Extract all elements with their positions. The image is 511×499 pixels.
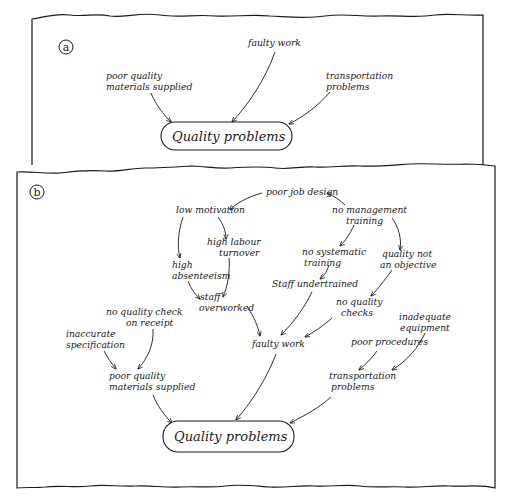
panel-a-target-label: Quality problems <box>172 129 286 144</box>
node-quality-not-objective: quality notan objective <box>380 248 437 270</box>
panel-b: b poor job designlow motivationno manage… <box>17 164 495 488</box>
node-faulty-work-b: faulty work <box>251 338 305 349</box>
svg-text:a: a <box>63 41 70 54</box>
node-faulty-work: faulty work <box>247 37 301 48</box>
panel-b-target-node: Quality problems <box>163 421 294 452</box>
panel-a-target-node: Quality problems <box>161 122 292 150</box>
quality-problems-diagram: a faulty workpoor qualitymaterials suppl… <box>0 0 511 499</box>
node-staff-undertrained: Staff undertrained <box>272 278 358 289</box>
panel-b-target-label: Quality problems <box>174 429 288 444</box>
panel-a: a faulty workpoor qualitymaterials suppl… <box>32 14 483 165</box>
node-poor-procedures: poor procedures <box>351 336 428 347</box>
node-poor-job-design: poor job design <box>266 186 338 197</box>
node-inadequate-equipment: inadequateequipment <box>399 311 452 333</box>
svg-text:b: b <box>33 186 40 199</box>
node-low-motivation: low motivation <box>176 204 245 215</box>
